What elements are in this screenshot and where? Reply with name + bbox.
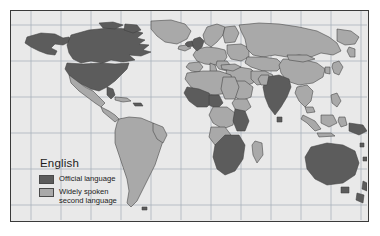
legend-title: English	[40, 157, 157, 170]
region-fiji	[363, 157, 367, 161]
legend-label-second: Widely spoken second language	[59, 187, 117, 205]
region-new-zealand-north	[362, 181, 367, 191]
region-pacific-islands	[360, 143, 364, 147]
region-malaysia	[305, 107, 315, 113]
region-tasmania	[341, 187, 349, 193]
map-frame: English Official language Widely spoken …	[10, 10, 369, 222]
map-figure: English Official language Widely spoken …	[0, 0, 380, 236]
legend-swatch-official-icon	[39, 175, 54, 184]
legend-label-official: Official language	[59, 174, 115, 183]
legend-item-second: Widely spoken second language	[39, 187, 157, 205]
region-hispaniola	[133, 103, 143, 106]
region-korea	[325, 67, 330, 74]
legend-item-official: Official language	[39, 174, 157, 184]
legend-swatch-second-icon	[39, 188, 54, 197]
region-sri-lanka	[277, 117, 282, 122]
map-legend: English Official language Widely spoken …	[39, 157, 157, 208]
region-egypt-sudan	[221, 77, 239, 99]
